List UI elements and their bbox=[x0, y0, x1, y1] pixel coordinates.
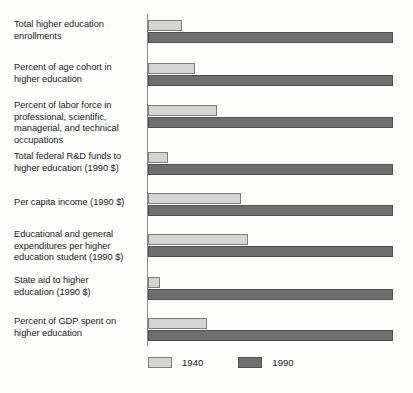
category-label-line: higher education (1990 $) bbox=[14, 163, 144, 175]
category-label: Per capita income (1990 $) bbox=[14, 197, 144, 209]
category-label-line: professional, scientific, bbox=[14, 112, 144, 124]
category-label-line: expenditures per higher bbox=[14, 241, 144, 253]
category-label-line: higher education bbox=[14, 74, 144, 86]
category-label: Total federal R&D funds tohigher educati… bbox=[14, 151, 144, 174]
bar-1940 bbox=[148, 63, 195, 74]
category-label: State aid to highereducation (1990 $) bbox=[14, 275, 144, 298]
category-label: Total higher educationenrollments bbox=[14, 19, 144, 42]
chart-legend: 19401990 bbox=[148, 357, 294, 368]
category-label-line: Per capita income (1990 $) bbox=[14, 197, 144, 209]
category-label-line: Total higher education bbox=[14, 19, 144, 31]
category-label-line: occupations bbox=[14, 135, 144, 147]
bar-1940 bbox=[148, 20, 182, 31]
bar-1990 bbox=[148, 117, 393, 128]
bar-1990 bbox=[148, 32, 393, 43]
bar-1990 bbox=[148, 205, 393, 216]
category-label: Percent of labor force inprofessional, s… bbox=[14, 100, 144, 146]
bar-pair bbox=[148, 63, 398, 86]
category-label-line: enrollments bbox=[14, 31, 144, 43]
bar-1940 bbox=[148, 152, 168, 163]
category-label-line: education (1990 $) bbox=[14, 287, 144, 299]
bar-1990 bbox=[148, 164, 393, 175]
bar-1940 bbox=[148, 318, 207, 329]
bar-1990 bbox=[148, 75, 393, 86]
bar-pair bbox=[148, 193, 398, 216]
category-label-line: Total federal R&D funds to bbox=[14, 151, 144, 163]
plot-area: Total higher educationenrollmentsPercent… bbox=[0, 0, 413, 350]
legend-item: 1940 bbox=[148, 357, 203, 368]
category-label: Educational and generalexpenditures per … bbox=[14, 229, 144, 264]
bar-1940 bbox=[148, 105, 217, 116]
bar-pair bbox=[148, 318, 398, 341]
category-label-line: State aid to higher bbox=[14, 275, 144, 287]
category-label-line: higher education bbox=[14, 328, 144, 340]
bar-1940 bbox=[148, 234, 248, 245]
legend-label-1940: 1940 bbox=[182, 357, 203, 368]
legend-label-1990: 1990 bbox=[272, 357, 293, 368]
legend-swatch-1940 bbox=[148, 357, 172, 368]
category-label-line: Educational and general bbox=[14, 229, 144, 241]
category-label-line: Percent of labor force in bbox=[14, 100, 144, 112]
category-label-line: Percent of age cohort in bbox=[14, 62, 144, 74]
bar-pair bbox=[148, 277, 398, 300]
bar-chart: Total higher educationenrollmentsPercent… bbox=[0, 0, 413, 393]
legend-item: 1990 bbox=[238, 357, 293, 368]
bar-pair bbox=[148, 105, 398, 128]
bar-1990 bbox=[148, 289, 393, 300]
bar-1940 bbox=[148, 193, 241, 204]
category-label-line: managerial, and technical bbox=[14, 123, 144, 135]
bar-pair bbox=[148, 234, 398, 257]
category-label: Percent of age cohort inhigher education bbox=[14, 62, 144, 85]
legend-swatch-1990 bbox=[238, 357, 262, 368]
bar-1940 bbox=[148, 277, 160, 288]
category-label: Percent of GDP spent onhigher education bbox=[14, 316, 144, 339]
bar-pair bbox=[148, 152, 398, 175]
category-label-line: education student (1990 $) bbox=[14, 252, 144, 264]
bar-1990 bbox=[148, 246, 393, 257]
bar-1990 bbox=[148, 330, 393, 341]
category-label-line: Percent of GDP spent on bbox=[14, 316, 144, 328]
bar-pair bbox=[148, 20, 398, 43]
